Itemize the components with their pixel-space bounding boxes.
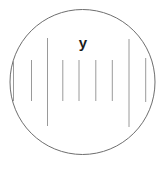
scale-ticks [14, 38, 146, 127]
reticle-diagram: y [0, 0, 163, 169]
y-scale-label: y [79, 34, 88, 51]
eyepiece-scale-svg: y [0, 0, 163, 169]
